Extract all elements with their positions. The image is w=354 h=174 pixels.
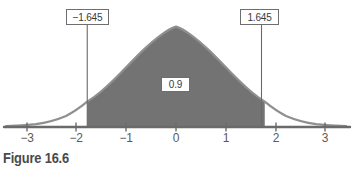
figure-caption: Figure 16.6 <box>3 150 69 167</box>
x-tick-label-3: 3 <box>312 131 338 145</box>
area-value-box: 0.9 <box>161 77 190 92</box>
upper-bound-value-box: 1.645 <box>240 9 279 25</box>
x-tick-label-neg1: −1 <box>113 131 139 145</box>
x-tick-label-2: 2 <box>263 131 289 145</box>
x-tick-label-neg2: −2 <box>63 131 89 145</box>
figure-container: −1.645 1.645 0.9 −3 −2 −1 0 1 2 3 Figure… <box>0 0 354 174</box>
x-tick-label-neg3: −3 <box>14 131 40 145</box>
x-tick-label-1: 1 <box>213 131 239 145</box>
lower-bound-value-box: −1.645 <box>66 9 109 25</box>
x-tick-label-0: 0 <box>163 131 189 145</box>
